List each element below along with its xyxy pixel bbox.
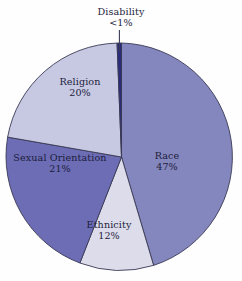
pie-chart-figure: Disability <1% Race 47% Religion 20% Sex… [0, 0, 242, 281]
pie-slices [6, 43, 232, 270]
pie-chart-canvas [0, 0, 242, 281]
pie-slice-religion[interactable] [8, 43, 122, 157]
